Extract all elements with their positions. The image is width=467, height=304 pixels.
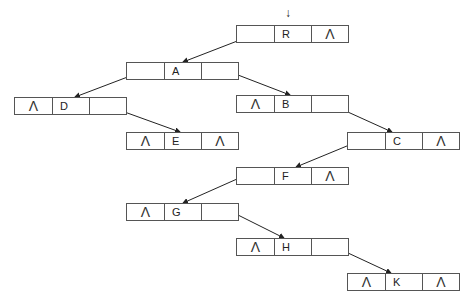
root-pointer-arrow-icon: ↓ (285, 6, 291, 20)
key-cell: B (274, 96, 311, 112)
left-pointer-cell (237, 168, 274, 184)
left-pointer-cell: Λ (237, 239, 274, 255)
key-cell: F (274, 168, 311, 184)
tree-node-r: RΛ (236, 25, 349, 43)
right-pointer-cell: Λ (201, 133, 238, 149)
tree-node-k: ΛKΛ (347, 273, 460, 291)
right-pointer-cell: Λ (422, 133, 459, 149)
key-cell: E (164, 133, 201, 149)
tree-node-b: ΛB (236, 95, 349, 113)
tree-node-h: ΛH (236, 238, 349, 256)
left-pointer-cell: Λ (127, 204, 164, 220)
right-pointer-cell (311, 239, 348, 255)
left-pointer-cell: Λ (237, 96, 274, 112)
key-cell: R (274, 26, 311, 42)
left-pointer-cell: Λ (15, 98, 52, 114)
tree-node-d: ΛD (14, 97, 127, 115)
tree-node-a: A (126, 62, 239, 80)
tree-node-c: CΛ (347, 132, 460, 150)
left-pointer-cell (348, 133, 385, 149)
tree-node-g: ΛG (126, 203, 239, 221)
left-pointer-cell: Λ (348, 274, 385, 290)
key-cell: D (52, 98, 89, 114)
right-pointer-cell: Λ (311, 168, 348, 184)
key-cell: A (164, 63, 201, 79)
tree-node-f: FΛ (236, 167, 349, 185)
right-pointer-cell (311, 96, 348, 112)
edge-layer (0, 0, 467, 304)
left-pointer-cell (127, 63, 164, 79)
right-pointer-cell: Λ (422, 274, 459, 290)
key-cell: K (385, 274, 422, 290)
right-pointer-cell: Λ (311, 26, 348, 42)
key-cell: G (164, 204, 201, 220)
left-pointer-cell (237, 26, 274, 42)
key-cell: C (385, 133, 422, 149)
edge-g-h-arrow (232, 212, 284, 238)
tree-node-e: ΛEΛ (126, 132, 239, 150)
right-pointer-cell (89, 98, 126, 114)
key-cell: H (274, 239, 311, 255)
right-pointer-cell (201, 63, 238, 79)
left-pointer-cell: Λ (127, 133, 164, 149)
right-pointer-cell (201, 204, 238, 220)
